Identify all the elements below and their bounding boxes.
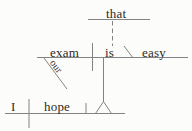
word-easy: easy [142, 46, 166, 59]
word-is: is [105, 46, 114, 59]
pedestal-triangle [96, 102, 112, 114]
sentence-diagram: that exam is easy our I hope [0, 0, 192, 131]
word-subject-i: I [11, 100, 16, 113]
predicate-adjective-divider [124, 46, 133, 58]
word-exam: exam [50, 46, 79, 59]
word-verb-hope: hope [44, 100, 70, 113]
word-that: that [106, 7, 126, 20]
diagram-lines [0, 0, 192, 131]
